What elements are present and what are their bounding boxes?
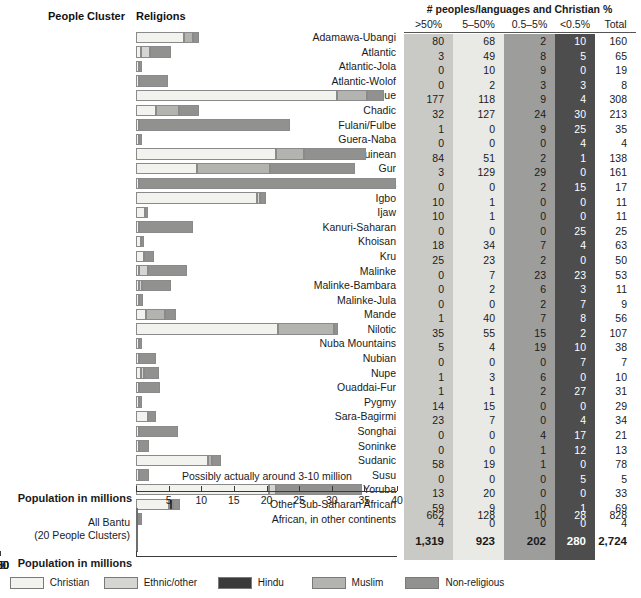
table-cell: 50 [595,253,636,268]
table-cell: 0 [404,428,453,443]
bar-segment-non-religious [165,309,175,320]
cluster-label: Malinke-Bambara [270,278,400,293]
table-title: # peoples/languages and Christian % [398,3,641,15]
bantu-segment-non-religious [136,508,138,552]
table-cell: 20 [453,486,504,501]
bar-row: Kru [0,249,400,264]
bar-row: Kanuri-Saharan [0,220,400,235]
bar-row: Ouaddai-Fur [0,380,400,395]
legend-label: Ethnic/other [144,576,197,590]
table-cell: 138 [595,151,636,166]
table-cell: 3 [404,49,453,64]
bar-segment-non-religious [139,426,178,437]
table-cell: 107 [595,326,636,341]
table-cell: 4 [453,340,504,355]
bar-row: Atlantic-Wolof [0,74,400,89]
table-cell: 10 [555,340,595,355]
cluster-label: Malinke [270,264,400,279]
axis-tick-label: 35 [359,494,371,506]
table-cell: 129 [453,165,504,180]
stacked-bar [136,382,160,393]
cluster-label: Pygmy [270,395,400,410]
table-cell: 7 [595,355,636,370]
axis-tick-label: 5 [166,494,172,506]
bar-segment-muslim [278,323,334,334]
bar-segment-non-religious [139,178,395,189]
table-cell: 25 [555,224,595,239]
bar-row: Sara-Bagirmi [0,409,400,424]
table-column-3: 2893924902292000722362715190620041100001… [504,34,555,560]
table-cell: 5 [555,472,595,487]
table-cell: 5 [595,472,636,487]
table-cell: 29 [595,399,636,414]
legend-label: Hindu [258,576,284,590]
stacked-bar [136,265,187,276]
cluster-label: Khoisan [270,234,400,249]
table-column-header: >50% [404,17,453,31]
table-cell: 3 [404,165,453,180]
table-cell: 1 [555,151,595,166]
table-cell: 2 [555,326,595,341]
table-cell: 30 [555,107,595,122]
stacked-bar [136,61,142,72]
table-cell: 9 [595,297,636,312]
legend: ChristianEthnic/otherHinduMuslimNon-reli… [8,576,408,592]
table-cell: 7 [555,297,595,312]
table-cell: 18 [404,238,453,253]
axis-tick-label: 10 [195,494,207,506]
bar-segment-christian [136,163,197,174]
table-cell: 0 [404,268,453,283]
axis-tick-origin [136,486,137,491]
stacked-bar [136,90,384,101]
table-cell: 6 [504,370,555,385]
table-cell: 17 [595,180,636,195]
cluster-label: Mande [270,307,400,322]
table-cell: 15 [504,326,555,341]
bar-segment-christian [136,90,337,101]
bar-row: Pygmy [0,395,400,410]
axis-tick [201,486,202,491]
axis-tick-label: 30 [326,494,338,506]
table-cell: 1 [453,209,504,224]
table-summary-cell: 28 [555,504,595,526]
bar-segment-non-religious [139,134,142,145]
table-summary-cell: 10 [504,504,555,526]
table-cell: 0 [504,413,555,428]
bar-segment-christian [136,499,169,510]
table-grand-total-cell: 923 [453,528,504,554]
bar-row: Malinke-Bambara [0,278,400,293]
annotation-text: Possibly actually around 3-10 million [182,470,352,482]
table-cell: 1 [504,443,555,458]
cluster-label: Soninke [270,439,400,454]
bar-segment-christian [136,207,145,218]
table-cell: 0 [555,253,595,268]
table-cell: 0 [555,370,595,385]
bar-segment-non-religious [139,61,142,72]
table-cell: 3 [555,78,595,93]
table-cell: 118 [453,92,504,107]
table-cell: 40 [453,311,504,326]
stacked-bar [136,32,199,43]
bar-row: Sudanic [0,453,400,468]
table-cell: 2 [504,34,555,49]
table-cell: 15 [555,180,595,195]
table-cell: 65 [595,49,636,64]
bar-segment-non-religious [141,236,144,247]
table-cell: 9 [504,122,555,137]
table-cell: 29 [504,165,555,180]
bar-segment-muslim [197,163,271,174]
axis-tick [234,486,235,491]
table-cell: 0 [453,224,504,239]
axis-tick-label: 300 [0,559,9,571]
bar-segment-christian [136,411,148,422]
bar-row: Atlantic-Jola [0,59,400,74]
bar-segment-christian [136,309,146,320]
stacked-bar [136,207,148,218]
table-cell: 5 [555,49,595,64]
bar-row: Songhai [0,424,400,439]
bar-segment-non-religious [148,265,187,276]
table-column-2: 6849102118127005112901103423720405540311… [453,34,504,560]
table-cell: 7 [504,238,555,253]
table-cell: 3 [555,282,595,297]
bar-segment-ethnic-other [139,265,148,276]
